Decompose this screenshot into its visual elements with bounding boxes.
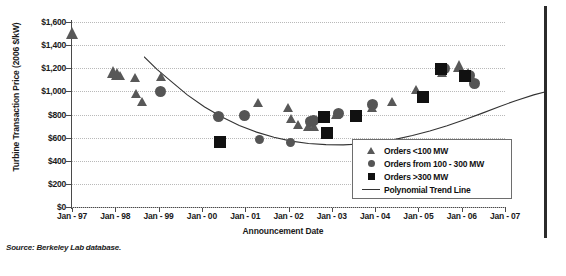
data-point-square bbox=[459, 70, 471, 82]
gridline bbox=[72, 22, 505, 23]
data-point-triangle bbox=[283, 103, 293, 112]
data-point-triangle bbox=[387, 97, 397, 106]
legend-item: Orders >300 MW bbox=[358, 170, 506, 183]
y-axis-tick-label: $1,000 bbox=[6, 87, 66, 96]
data-point-triangle bbox=[115, 71, 125, 80]
y-axis-tick-label: $600 bbox=[6, 134, 66, 143]
data-point-circle bbox=[213, 111, 224, 122]
data-point-square bbox=[214, 136, 226, 148]
chart-figure: Turbine Transaction Price (2006 $/kW) $1… bbox=[0, 0, 566, 276]
square-icon bbox=[368, 173, 375, 180]
data-point-circle bbox=[367, 99, 378, 110]
legend-item: Orders from 100 - 300 MW bbox=[358, 157, 506, 170]
line-icon bbox=[362, 189, 380, 190]
legend-item: Polynomial Trend Line bbox=[358, 183, 506, 196]
data-point-square bbox=[417, 91, 429, 103]
y-axis-tick-label: $800 bbox=[6, 111, 66, 120]
data-point-square bbox=[350, 110, 362, 122]
y-axis-tick-label: $1,200 bbox=[6, 64, 66, 73]
data-point-triangle bbox=[137, 97, 147, 106]
circle-icon bbox=[368, 160, 375, 167]
source-note: Source: Berkeley Lab database. bbox=[6, 243, 121, 252]
y-axis-tick-label: $1,600 bbox=[6, 18, 66, 27]
data-point-circle bbox=[286, 138, 295, 147]
data-point-triangle bbox=[293, 120, 303, 129]
data-point-circle bbox=[239, 110, 250, 121]
data-point-triangle bbox=[253, 98, 263, 107]
y-axis-tick-label: $200 bbox=[6, 180, 66, 189]
data-point-triangle bbox=[156, 72, 166, 81]
y-axis-tick-label: $400 bbox=[6, 157, 66, 166]
data-point-square bbox=[435, 63, 447, 75]
x-axis-title: Announcement Date bbox=[0, 226, 566, 236]
chart-legend: Orders <100 MWOrders from 100 - 300 MWOr… bbox=[352, 139, 512, 199]
data-point-triangle bbox=[130, 73, 140, 82]
data-point-circle bbox=[255, 135, 264, 144]
legend-item-label: Orders <100 MW bbox=[384, 146, 448, 156]
page-edge-artifact bbox=[544, 6, 547, 238]
data-point-triangle bbox=[66, 27, 78, 39]
polynomial-trend-line bbox=[144, 44, 566, 229]
legend-item-label: Polynomial Trend Line bbox=[384, 185, 470, 195]
legend-item-label: Orders from 100 - 300 MW bbox=[384, 159, 484, 169]
y-axis-tick-label: $1,400 bbox=[6, 41, 66, 50]
legend-item-label: Orders >300 MW bbox=[384, 172, 448, 182]
legend-item: Orders <100 MW bbox=[358, 144, 506, 157]
data-point-square bbox=[321, 127, 333, 139]
triangle-icon bbox=[367, 147, 375, 154]
data-point-square bbox=[318, 111, 330, 123]
